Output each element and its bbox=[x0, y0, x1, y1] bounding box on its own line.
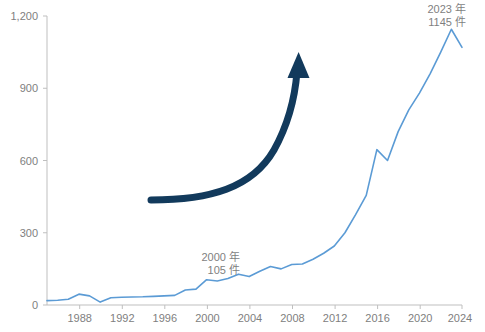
y-tick-label-0: 0 bbox=[32, 299, 38, 311]
y-tick-label-1200: 1,200 bbox=[10, 10, 38, 22]
y-axis-ticks bbox=[43, 16, 47, 305]
x-axis-ticks bbox=[80, 305, 462, 309]
x-tick-label-1988: 1988 bbox=[67, 312, 91, 324]
annotation-point-2000-count: 105 件 bbox=[208, 264, 240, 276]
annotation-peak-2023-year: 2023 年 bbox=[427, 2, 466, 15]
annotation-point-2000-year: 2000 年 bbox=[201, 250, 240, 263]
growth-arrow-icon bbox=[151, 52, 310, 200]
x-tick-label-2020: 2020 bbox=[408, 312, 432, 324]
y-tick-label-900: 900 bbox=[20, 82, 38, 94]
annotation-peak-2023: 2023 年 1145 件 bbox=[427, 2, 466, 28]
x-tick-label-1996: 1996 bbox=[153, 312, 177, 324]
x-tick-label-2004: 2004 bbox=[238, 312, 262, 324]
x-tick-label-2016: 2016 bbox=[365, 312, 389, 324]
y-tick-label-300: 300 bbox=[20, 227, 38, 239]
x-tick-label-2000: 2000 bbox=[195, 312, 219, 324]
growth-line-chart: 0 300 600 900 1,200 1988 1992 1996 2000 … bbox=[0, 0, 485, 332]
x-tick-label-2008: 2008 bbox=[280, 312, 304, 324]
annotation-peak-2023-count: 1145 件 bbox=[428, 16, 466, 28]
growth-arrow-shaft bbox=[151, 72, 297, 200]
x-tick-label-2024: 2024 bbox=[448, 312, 472, 324]
y-tick-label-600: 600 bbox=[20, 155, 38, 167]
x-tick-label-2012: 2012 bbox=[323, 312, 347, 324]
data-series-line bbox=[47, 29, 462, 302]
x-axis-labels: 1988 1992 1996 2000 2004 2008 2012 2016 … bbox=[67, 312, 472, 324]
chart-canvas: 0 300 600 900 1,200 1988 1992 1996 2000 … bbox=[0, 0, 485, 332]
x-tick-label-1992: 1992 bbox=[110, 312, 134, 324]
y-axis-labels: 0 300 600 900 1,200 bbox=[10, 10, 38, 311]
annotation-point-2000: 2000 年 105 件 bbox=[201, 250, 240, 276]
growth-arrow-head bbox=[288, 52, 310, 78]
